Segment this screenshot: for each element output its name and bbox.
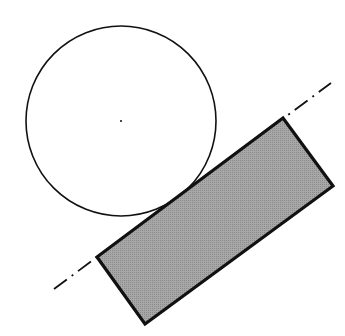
block: [97, 118, 333, 324]
diagram-canvas: [0, 0, 345, 336]
circle-center-point: [120, 120, 122, 122]
